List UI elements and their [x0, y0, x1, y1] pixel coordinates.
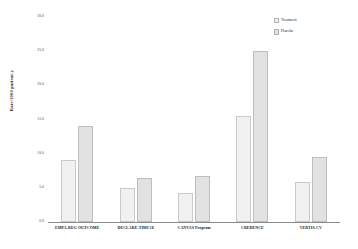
bar-placebo[interactable] [137, 178, 152, 222]
bar-treatment[interactable] [295, 182, 310, 222]
bar-group [165, 17, 223, 222]
legend-item-label: Placebo [281, 30, 293, 34]
y-axis-tick-label: 10.0 [37, 152, 44, 156]
legend-swatch-icon [274, 18, 279, 23]
legend-item-treatment[interactable]: Treatment [274, 18, 344, 23]
bar-treatment[interactable] [178, 193, 193, 222]
legend-item-placebo[interactable]: Placebo [274, 29, 344, 34]
y-axis-tick-label: 30.0 [37, 15, 44, 19]
x-axis-tick-label-1: DECLARE-TIMI 58 [106, 226, 164, 244]
bar-groups [48, 17, 340, 222]
bar-placebo[interactable] [195, 176, 210, 222]
x-axis-tick-label-4: VERTIS-CV [282, 226, 340, 244]
bar-chart: 30.025.020.015.010.05.00.0 Rate/1000 pat… [0, 0, 358, 249]
y-axis-tick-labels: 30.025.020.015.010.05.00.0 [0, 0, 44, 249]
y-axis-tick-label: 25.0 [37, 49, 44, 53]
bar-placebo[interactable] [253, 51, 268, 222]
bar-group [106, 17, 164, 222]
x-axis-tick-label-0: EMPA-REG OUTCOME [48, 226, 106, 244]
x-axis-tick-label-2: CANVAS Program [165, 226, 223, 244]
legend-item-label: Treatment [281, 19, 296, 23]
y-axis-tick-label: 5.0 [39, 186, 44, 190]
legend-swatch-icon [274, 29, 279, 34]
x-axis-tick-label-3: CREDENCE [223, 226, 281, 244]
bar-placebo[interactable] [312, 157, 327, 222]
bar-placebo[interactable] [78, 126, 93, 222]
bar-group [223, 17, 281, 222]
y-axis-title: Rate/1000 patient-y [9, 36, 14, 146]
bar-group [48, 17, 106, 222]
bar-group [282, 17, 340, 222]
bar-treatment[interactable] [236, 116, 251, 222]
bar-treatment[interactable] [120, 188, 135, 222]
bar-treatment[interactable] [61, 160, 76, 222]
x-axis-line [48, 222, 340, 223]
y-axis-tick-label: 20.0 [37, 84, 44, 88]
y-axis-tick-label: 0.0 [39, 220, 44, 224]
x-axis-tick-labels: EMPA-REG OUTCOMEDECLARE-TIMI 58CANVAS Pr… [48, 226, 340, 244]
chart-legend: TreatmentPlacebo [274, 18, 344, 41]
y-axis-tick-label: 15.0 [37, 118, 44, 122]
